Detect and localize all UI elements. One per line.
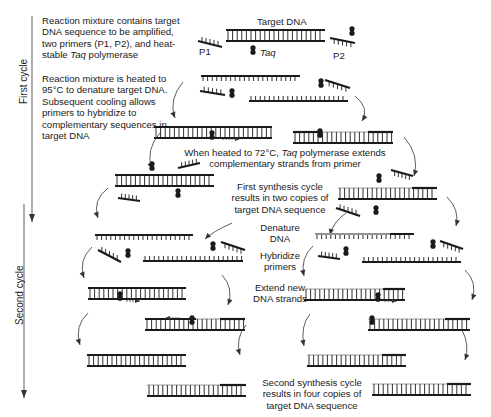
taq-polymerase-icon (317, 133, 322, 138)
taq-polymerase-icon (369, 320, 374, 325)
arrow-head-icon (300, 340, 305, 346)
arrow-head-icon (471, 293, 476, 300)
arrow-head-icon (80, 271, 85, 278)
arrow-head-icon (228, 298, 233, 305)
taq-polymerase-icon (318, 83, 323, 88)
arrow-head-icon (21, 390, 27, 398)
arrow-head-icon (300, 270, 305, 276)
taq-polymerase-icon (125, 253, 130, 258)
taq-polymerase-icon (117, 296, 122, 301)
arrow-head-icon (464, 353, 469, 360)
taq-polymerase-icon (373, 210, 378, 215)
taq-polymerase-icon (175, 193, 180, 198)
arrow-head-icon (29, 214, 35, 222)
taq-polymerase-icon (209, 135, 214, 140)
taq-polymerase-icon (376, 178, 381, 183)
taq-polymerase-icon (149, 166, 154, 171)
arrow-head-icon (205, 233, 211, 239)
taq-polymerase-icon (430, 244, 435, 249)
taq-polymerase-icon (189, 320, 194, 325)
taq-polymerase-icon (349, 31, 354, 36)
taq-polymerase-icon (250, 50, 255, 55)
taq-polymerase-icon (210, 246, 215, 251)
arrow-head-icon (170, 111, 175, 118)
taq-polymerase-icon (375, 297, 380, 302)
arrow-head-icon (76, 338, 81, 345)
pcr-diagram (0, 0, 491, 417)
arrow-head-icon (236, 349, 241, 355)
arrow-head-icon (413, 170, 418, 176)
taq-polymerase-icon (229, 93, 234, 98)
taq-polymerase-icon (343, 251, 348, 256)
arrow-head-icon (455, 220, 460, 226)
arrow-head-icon (94, 211, 99, 218)
